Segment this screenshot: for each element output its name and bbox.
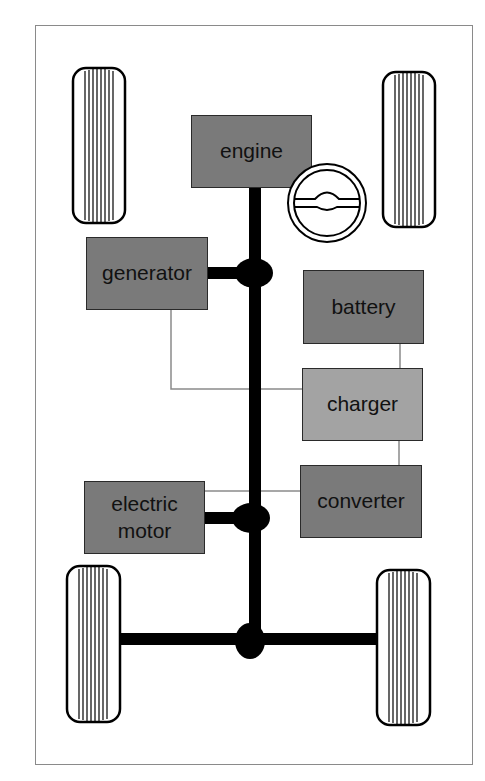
generator-label: generator xyxy=(102,260,192,286)
converter-label: converter xyxy=(317,488,405,514)
engine-label: engine xyxy=(220,138,283,164)
battery-label: battery xyxy=(331,294,395,320)
generator-node xyxy=(235,258,273,288)
electric-motor-label-line1: electric xyxy=(111,491,178,517)
battery-box: battery xyxy=(303,270,424,344)
motor-node xyxy=(232,503,270,533)
tire-rear-left-icon xyxy=(67,566,120,722)
generator-box: generator xyxy=(86,237,208,310)
tire-rear-right-icon xyxy=(377,570,430,725)
tire-front-right-icon xyxy=(383,72,435,227)
electric-motor-label-line2: motor xyxy=(118,518,172,544)
tire-front-left-icon xyxy=(73,68,125,223)
converter-box: converter xyxy=(300,465,422,538)
charger-box: charger xyxy=(302,368,423,441)
steering-wheel-icon xyxy=(285,162,370,244)
electric-motor-box: electric motor xyxy=(84,481,205,554)
wire-generator-charger xyxy=(171,310,302,389)
differential-node xyxy=(235,623,265,659)
charger-label: charger xyxy=(327,391,398,417)
